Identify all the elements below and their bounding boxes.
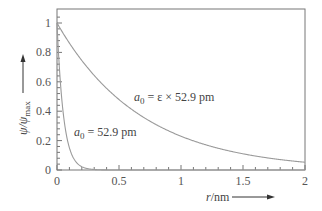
y-tick-label: 0.8	[36, 45, 51, 59]
y-axis-label: ψ/ψmax	[16, 54, 32, 135]
x-tick-label: 1	[178, 174, 184, 188]
y-tick-label: 0.2	[36, 134, 51, 148]
x-axis-label: r/nm	[206, 190, 230, 204]
chart: 00.511.5200.20.40.60.81 a0 = ε × 52.9 pm…	[0, 0, 322, 211]
svg-text:ψ/ψmax: ψ/ψmax	[16, 101, 32, 135]
x-tick-label: 0.5	[112, 174, 127, 188]
y-tick-label: 0.4	[36, 104, 51, 118]
y-tick-label: 0	[45, 163, 51, 177]
label-wide-curve: a0 = ε × 52.9 pm	[134, 90, 215, 106]
y-tick-label: 0.6	[36, 75, 51, 89]
x-tick-label: 1.5	[236, 174, 251, 188]
x-tick-label: 2	[302, 174, 308, 188]
y-tick-label: 1	[45, 16, 51, 30]
label-steep-curve: a0 = 52.9 pm	[74, 125, 137, 141]
x-axis-arrowhead	[267, 195, 275, 200]
x-tick-label: 0	[54, 174, 60, 188]
